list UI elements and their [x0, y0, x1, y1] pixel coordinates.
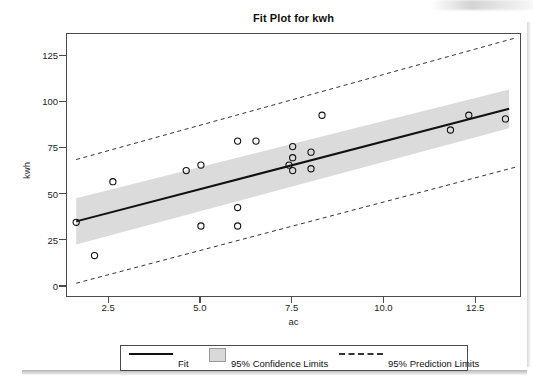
fit-line-swatch-icon [129, 353, 173, 355]
legend-item-fit: Fit [129, 346, 189, 372]
data-point [253, 138, 259, 144]
y-tick-mark [59, 55, 66, 56]
y-tick-label: 0 [24, 280, 58, 291]
y-axis-label: kwh [21, 141, 32, 201]
data-point [235, 223, 241, 229]
legend-item-confidence: 95% Confidence Limits [209, 346, 328, 372]
data-point [91, 252, 97, 258]
x-tick-label: 12.5 [455, 302, 495, 313]
y-tick-mark [59, 147, 66, 148]
x-tick-mark [199, 297, 200, 303]
x-axis-label: ac [66, 316, 521, 327]
x-tick-mark [475, 297, 476, 303]
x-tick-label: 2.5 [88, 302, 128, 313]
data-point [235, 138, 241, 144]
confidence-band [76, 89, 509, 244]
y-tick-mark [59, 285, 66, 286]
page-title: Fit Plot for kwh [66, 12, 521, 24]
x-tick-label: 7.5 [272, 302, 312, 313]
data-point [319, 112, 325, 118]
y-tick-label: 100 [24, 96, 58, 107]
fit-line [76, 109, 509, 222]
y-tick-mark [59, 193, 66, 194]
y-tick-mark [59, 239, 66, 240]
prediction-line-swatch-icon [339, 353, 383, 355]
legend-label-prediction: 95% Prediction Limits [388, 358, 479, 372]
x-tick-mark [108, 297, 109, 303]
data-point [235, 204, 241, 210]
x-tick-mark [291, 297, 292, 303]
plot-canvas [67, 34, 521, 297]
chart-legend: Fit 95% Confidence Limits 95% Prediction… [120, 345, 468, 371]
data-point [110, 179, 116, 185]
legend-label-fit: Fit [178, 358, 189, 372]
y-tick-label: 25 [24, 234, 58, 245]
x-tick-mark [383, 297, 384, 303]
x-tick-label: 10.0 [363, 302, 403, 313]
legend-item-prediction: 95% Prediction Limits [339, 346, 479, 372]
x-tick-label: 5.0 [180, 302, 220, 313]
y-tick-label: 125 [24, 50, 58, 61]
y-tick-mark [59, 101, 66, 102]
legend-label-confidence: 95% Confidence Limits [231, 358, 328, 372]
confidence-band-swatch-icon [209, 348, 226, 362]
plot-area [66, 33, 521, 297]
data-point [198, 223, 204, 229]
fit-plot-figure: Fit Plot for kwh 0255075100125 kwh 2.55.… [0, 0, 533, 381]
